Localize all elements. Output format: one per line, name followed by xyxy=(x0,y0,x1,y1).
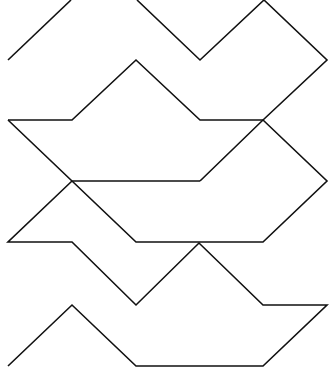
upper-shape-top xyxy=(8,60,263,120)
line-drawing-canvas xyxy=(0,0,329,376)
line-drawing-svg xyxy=(0,0,329,376)
middle-shape-left xyxy=(8,181,327,366)
upper-shape-left-diagonal xyxy=(8,120,200,181)
top-left-diagonal xyxy=(8,0,71,60)
